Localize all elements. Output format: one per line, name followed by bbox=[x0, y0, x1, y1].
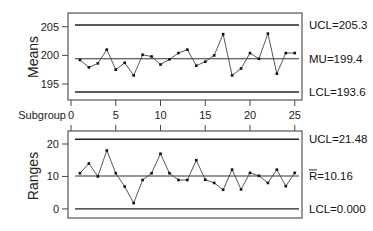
data-point bbox=[123, 185, 126, 188]
data-point bbox=[195, 159, 198, 162]
data-point bbox=[293, 52, 296, 55]
data-point bbox=[123, 61, 126, 64]
data-point bbox=[97, 175, 100, 178]
means-panel: 195200205 Means UCL=205.3 MU=199.4 LCL=1… bbox=[25, 13, 368, 100]
data-point bbox=[231, 168, 234, 171]
data-point bbox=[222, 188, 225, 191]
data-point bbox=[258, 57, 261, 60]
means-data-points bbox=[79, 32, 296, 76]
data-point bbox=[141, 179, 144, 182]
x-tick-label: 25 bbox=[289, 109, 301, 121]
y-tick-label: 205 bbox=[41, 21, 59, 33]
data-point bbox=[177, 179, 180, 182]
y-tick-label: 195 bbox=[41, 78, 59, 90]
data-point bbox=[240, 188, 243, 191]
xbar-r-control-chart: 195200205 Means UCL=205.3 MU=199.4 LCL=1… bbox=[0, 0, 373, 231]
data-point bbox=[195, 64, 198, 67]
data-point bbox=[213, 182, 216, 185]
data-point bbox=[88, 162, 91, 165]
x-tick-label: 20 bbox=[244, 109, 256, 121]
means-series-line bbox=[80, 34, 295, 76]
means-ucl-label: UCL=205.3 bbox=[309, 19, 368, 31]
means-lcl-label: LCL=193.6 bbox=[309, 86, 366, 98]
ranges-ucl-label: UCL=21.48 bbox=[309, 133, 368, 145]
data-point bbox=[267, 182, 270, 185]
means-y-label: Means bbox=[25, 36, 41, 78]
data-point bbox=[150, 172, 153, 175]
means-y-axis: 195200205 bbox=[41, 21, 68, 90]
x-tick-label: 5 bbox=[113, 109, 119, 121]
y-tick-label: 200 bbox=[41, 49, 59, 61]
subgroup-x-axis: Subgroup 0510152025 bbox=[18, 100, 301, 131]
means-plot-frame bbox=[68, 13, 302, 100]
data-point bbox=[267, 32, 270, 35]
data-point bbox=[258, 174, 261, 177]
ranges-y-axis: 01020 bbox=[47, 138, 68, 215]
y-tick-label: 20 bbox=[47, 138, 59, 150]
ranges-panel: 01020 Ranges UCL=21.48 R=10.16 LCL=0.000 bbox=[25, 131, 368, 218]
data-point bbox=[293, 172, 296, 175]
data-point bbox=[168, 172, 171, 175]
data-point bbox=[88, 66, 91, 69]
means-center-label: MU=199.4 bbox=[309, 53, 363, 65]
ranges-center-label: R=10.16 bbox=[309, 170, 353, 182]
data-point bbox=[159, 63, 162, 66]
data-point bbox=[168, 58, 171, 61]
ranges-plot-frame bbox=[68, 131, 302, 218]
x-tick-label: 0 bbox=[68, 109, 74, 121]
ranges-lcl-label: LCL=0.000 bbox=[309, 203, 366, 215]
data-point bbox=[204, 60, 207, 63]
data-point bbox=[276, 168, 279, 171]
data-point bbox=[141, 53, 144, 56]
data-point bbox=[249, 52, 252, 55]
data-point bbox=[114, 172, 117, 175]
data-point bbox=[249, 172, 252, 175]
data-point bbox=[114, 68, 117, 71]
data-point bbox=[150, 55, 153, 58]
data-point bbox=[79, 59, 82, 62]
data-point bbox=[106, 48, 109, 51]
data-point bbox=[132, 74, 135, 77]
data-point bbox=[285, 52, 288, 55]
data-point bbox=[159, 152, 162, 155]
data-point bbox=[231, 74, 234, 77]
data-point bbox=[186, 48, 189, 51]
data-point bbox=[79, 172, 82, 175]
data-point bbox=[97, 62, 100, 65]
ranges-series-line bbox=[80, 150, 295, 203]
x-tick-label: 10 bbox=[154, 109, 166, 121]
data-point bbox=[106, 149, 109, 152]
data-point bbox=[186, 179, 189, 182]
data-point bbox=[276, 72, 279, 75]
data-point bbox=[213, 54, 216, 57]
data-point bbox=[285, 185, 288, 188]
y-tick-label: 10 bbox=[47, 170, 59, 182]
x-tick-label: 15 bbox=[199, 109, 211, 121]
data-point bbox=[132, 202, 135, 205]
data-point bbox=[204, 178, 207, 181]
data-point bbox=[240, 67, 243, 70]
data-point bbox=[177, 52, 180, 55]
ranges-y-label: Ranges bbox=[25, 152, 41, 200]
y-tick-label: 0 bbox=[53, 203, 59, 215]
ranges-data-points bbox=[79, 149, 296, 204]
subgroup-axis-label: Subgroup bbox=[18, 109, 66, 121]
data-point bbox=[222, 33, 225, 36]
